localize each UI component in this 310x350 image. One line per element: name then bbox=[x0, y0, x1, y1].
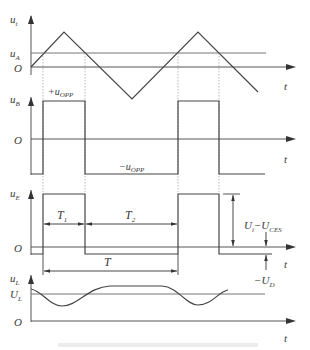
plot-ub: uB O t +uOPP −uOPP bbox=[10, 86, 296, 175]
waveform-diagram: ut uA O t uB O t +uOPP −uOPP bbox=[0, 0, 310, 350]
high-level-label: +uOPP bbox=[48, 86, 74, 99]
triangle-wave bbox=[31, 32, 258, 99]
ue-axis-label: uE bbox=[10, 187, 21, 202]
ua-label: uA bbox=[10, 47, 21, 62]
t1-label: T1 bbox=[57, 208, 67, 224]
ul-y-axis-arrow-icon bbox=[28, 275, 34, 284]
ut-origin-label: O bbox=[14, 62, 22, 74]
ut-axis-label: ut bbox=[10, 13, 19, 28]
ut-t-label: t bbox=[284, 80, 288, 92]
ripple-wave bbox=[31, 286, 228, 306]
ub-y-axis-arrow-icon bbox=[28, 97, 34, 106]
ue-y-axis-arrow-icon bbox=[28, 190, 34, 199]
square-wave bbox=[31, 101, 265, 174]
ub-origin-label: O bbox=[14, 134, 22, 146]
ub-x-axis-arrow-icon bbox=[286, 136, 296, 142]
ut-y-axis-arrow-icon bbox=[28, 15, 34, 24]
t2-label: T2 bbox=[125, 208, 136, 224]
plot-ue: uE O t T1 T2 T Ui−UCES −UD bbox=[10, 187, 296, 289]
amplitude-label: Ui−UCES bbox=[244, 219, 282, 234]
ue-origin-label: O bbox=[14, 242, 22, 254]
ul-origin-label: O bbox=[14, 316, 22, 328]
negative-diode-label: −UD bbox=[254, 274, 274, 289]
low-level-label: −uOPP bbox=[119, 161, 145, 174]
period-label: T bbox=[104, 255, 112, 269]
ul-axis-label: uL bbox=[10, 272, 20, 287]
ue-t-label: t bbox=[284, 258, 288, 270]
ue-x-axis-arrow-icon bbox=[286, 244, 296, 250]
ul-t-label: t bbox=[284, 332, 288, 344]
ul-average-label: UL bbox=[10, 288, 22, 303]
ub-axis-label: uB bbox=[10, 93, 21, 108]
ul-x-axis-arrow-icon bbox=[286, 318, 296, 324]
figure-caption-placeholder bbox=[58, 343, 258, 347]
ut-x-axis-arrow-icon bbox=[286, 64, 296, 70]
ub-t-label: t bbox=[284, 153, 288, 165]
